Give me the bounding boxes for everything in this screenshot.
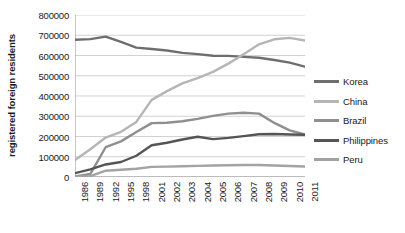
series-line-china (75, 38, 305, 160)
legend-swatch-icon (314, 100, 339, 103)
plot-svg (75, 15, 305, 177)
y-axis-tick-label: 200000 (38, 131, 69, 142)
legend-item-philippines[interactable]: Philippines (314, 131, 404, 151)
x-axis-tick-label: 2010 (294, 182, 305, 202)
legend-item-brazil[interactable]: Brazil (314, 111, 404, 131)
x-axis-tick-label: 2007 (248, 182, 259, 202)
x-axis-tick-labels: 1986198919921995199820012002200320042005… (75, 182, 305, 233)
legend-item-china[interactable]: China (314, 92, 404, 112)
x-axis-tick-label: 2005 (217, 182, 228, 202)
x-axis-tick-label: 1986 (79, 182, 90, 202)
legend-label: China (343, 96, 367, 107)
legend-swatch-icon (314, 119, 339, 122)
x-axis-tick-label: 2008 (263, 182, 274, 202)
legend-label: Korea (343, 76, 368, 87)
legend-item-korea[interactable]: Korea (314, 72, 404, 92)
y-axis-tick-label: 500000 (38, 70, 69, 81)
x-axis-tick-label: 1995 (125, 182, 136, 202)
x-axis-tick-label: 2001 (156, 182, 167, 202)
y-axis-tick-label: 800000 (38, 10, 69, 21)
y-axis-tick-labels: 0100000200000300000400000500000600000700… (22, 0, 73, 190)
y-axis-tick-label: 700000 (38, 30, 69, 41)
y-axis-tick-label: 400000 (38, 91, 69, 102)
chart-legend: KoreaChinaBrazilPhilippinesPeru (314, 72, 404, 170)
x-axis-tick-label: 2003 (186, 182, 197, 202)
y-axis-tick-label: 300000 (38, 111, 69, 122)
x-axis-tick-label: 2011 (309, 182, 320, 202)
series-line-peru (75, 165, 305, 177)
legend-item-peru[interactable]: Peru (314, 150, 404, 170)
y-axis-tick-label: 0 (64, 172, 69, 183)
legend-swatch-icon (314, 80, 339, 83)
legend-label: Philippines (343, 135, 388, 146)
y-axis-tick-label: 600000 (38, 50, 69, 61)
y-axis-title: registered foreign residents (0, 0, 22, 190)
x-axis-tick-label: 1992 (110, 182, 121, 202)
y-axis-title-text: registered foreign residents (6, 34, 17, 157)
x-axis-tick-label: 2002 (171, 182, 182, 202)
x-axis-tick-label: 2009 (278, 182, 289, 202)
legend-label: Peru (343, 154, 363, 165)
legend-label: Brazil (343, 115, 366, 126)
y-axis-tick-label: 100000 (38, 151, 69, 162)
x-axis-tick-label: 1998 (140, 182, 151, 202)
line-chart: registered foreign residents 01000002000… (0, 0, 405, 233)
legend-swatch-icon (314, 158, 339, 161)
x-axis-tick-label: 1989 (94, 182, 105, 202)
x-axis-tick-label: 2004 (202, 182, 213, 202)
x-axis-tick-label: 2006 (232, 182, 243, 202)
legend-swatch-icon (314, 139, 339, 142)
plot-area (75, 15, 305, 177)
series-line-philippines (75, 134, 305, 173)
